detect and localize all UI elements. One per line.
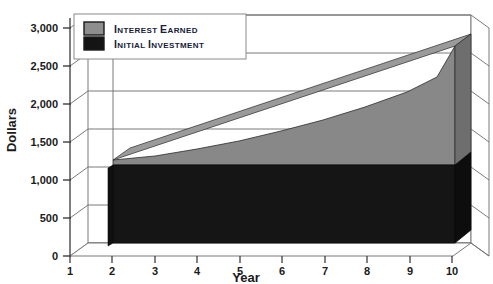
x-axis-title: Year — [232, 270, 259, 284]
x-tick-label-10: 10 — [446, 265, 458, 277]
x-tick-label-8: 8 — [364, 265, 370, 277]
legend-ii-rest2: NVESTMENT — [151, 41, 204, 50]
y-tick-label-2000: 2,000 — [30, 98, 58, 110]
black-swatch — [84, 37, 104, 50]
chart-legend: INTEREST EARNED INITIAL INVESTMENT — [74, 14, 246, 59]
y-tick-label-1500: 1,500 — [30, 136, 58, 148]
legend-ie-cap2: E — [160, 23, 167, 35]
legend-ie-rest2: ARNED — [168, 26, 198, 35]
y-tick-label-500: 500 — [40, 212, 58, 224]
x-axis: 1 2 3 4 5 6 7 8 9 10 — [67, 256, 458, 277]
floor-plane — [70, 243, 471, 256]
x-tick-label-4: 4 — [194, 265, 201, 277]
series-interest-earned-endcap — [455, 34, 471, 165]
y-axis: 3,000 2,500 2,000 1,500 1,000 500 0 Doll… — [4, 22, 71, 262]
legend-ii-rest1: NITIAL — [117, 41, 148, 50]
y-axis-title: Dollars — [4, 108, 19, 152]
y-tick-label-1000: 1,000 — [30, 174, 58, 186]
x-axis-ticks — [70, 256, 452, 263]
x-tick-label-2: 2 — [109, 265, 115, 277]
x-tick-label-9: 9 — [407, 265, 413, 277]
legend-ie-rest1: NTEREST — [117, 26, 160, 35]
compound-interest-area-chart: 3,000 2,500 2,000 1,500 1,000 500 0 Doll… — [0, 0, 493, 284]
series-initial-investment-front — [113, 165, 455, 243]
chart-canvas: 3,000 2,500 2,000 1,500 1,000 500 0 Doll… — [0, 0, 493, 284]
y-tick-label-0: 0 — [52, 250, 58, 262]
x-tick-label-6: 6 — [279, 265, 285, 277]
gray-swatch — [84, 22, 104, 35]
series-initial-investment-endcap — [455, 152, 471, 243]
x-tick-label-1: 1 — [67, 265, 73, 277]
y-tick-label-2500: 2,500 — [30, 60, 58, 72]
y-tick-label-3000: 3,000 — [30, 22, 58, 34]
x-tick-label-7: 7 — [322, 265, 328, 277]
x-tick-label-3: 3 — [152, 265, 158, 277]
series-initial-investment-leftcap — [108, 165, 113, 246]
